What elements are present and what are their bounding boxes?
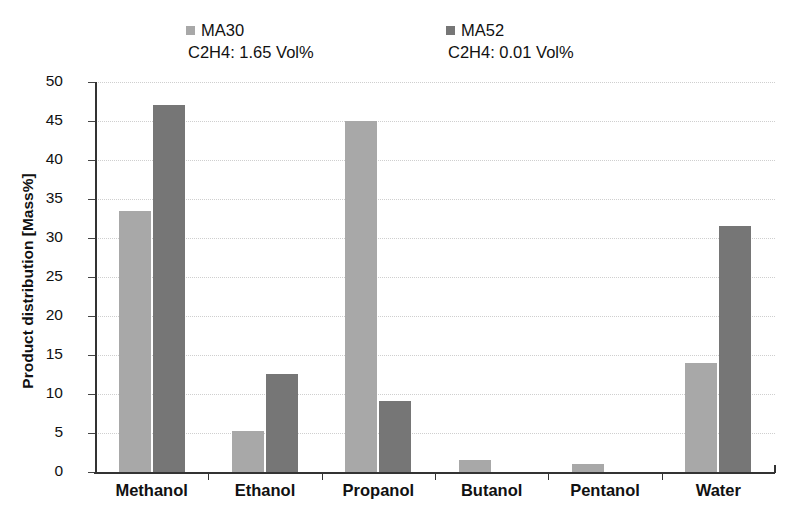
y-tick (88, 394, 95, 395)
y-tick-label: 15 (3, 346, 63, 362)
y-tick (88, 160, 95, 161)
legend-item-ma30: MA30 C2H4: 1.65 Vol% (186, 20, 314, 64)
bar-propanol-ma30 (345, 121, 377, 472)
gridline (95, 277, 775, 278)
y-tick-label: 0 (3, 463, 63, 479)
x-label-butanol: Butanol (435, 481, 548, 500)
bar-propanol-ma52 (379, 401, 411, 472)
bar-butanol-ma30 (459, 460, 491, 472)
chart-legend: MA30 C2H4: 1.65 Vol% MA52 C2H4: 0.01 Vol… (0, 18, 796, 76)
legend-sublabel-ma52: C2H4: 0.01 Vol% (448, 43, 574, 61)
y-tick-label: 10 (3, 385, 63, 401)
x-axis-labels: MethanolEthanolPropanolButanolPentanolWa… (95, 481, 775, 511)
x-label-pentanol: Pentanol (548, 481, 661, 500)
bar-methanol-ma30 (119, 211, 151, 472)
y-tick (88, 433, 95, 434)
y-tick (88, 238, 95, 239)
legend-label-ma30: MA30 (201, 21, 244, 39)
y-tick-label: 25 (3, 268, 63, 284)
y-tick-label: 40 (3, 151, 63, 167)
gridline (95, 355, 775, 356)
y-tick-label: 30 (3, 229, 63, 245)
x-label-water: Water (662, 481, 775, 500)
bar-chart: Product distribution [Mass%] 05101520253… (0, 0, 796, 530)
y-tick (88, 121, 95, 122)
y-tick-label: 35 (3, 190, 63, 206)
legend-swatch-ma30 (186, 26, 195, 35)
legend-item-ma52: MA52 C2H4: 0.01 Vol% (446, 20, 574, 64)
legend-swatch-ma52 (446, 26, 455, 35)
x-label-methanol: Methanol (95, 481, 208, 500)
gridline (95, 121, 775, 122)
x-axis-line (94, 472, 775, 474)
legend-label-ma52: MA52 (461, 21, 504, 39)
y-tick-label: 5 (3, 424, 63, 440)
y-tick (88, 277, 95, 278)
y-tick (88, 355, 95, 356)
gridline (95, 238, 775, 239)
x-label-ethanol: Ethanol (208, 481, 321, 500)
gridline (95, 160, 775, 161)
x-axis-endcap (774, 465, 776, 473)
bar-ethanol-ma52 (266, 374, 298, 472)
gridline (95, 433, 775, 434)
x-label-propanol: Propanol (322, 481, 435, 500)
gridline (95, 82, 775, 83)
bar-water-ma52 (719, 226, 751, 472)
y-tick-label: 20 (3, 307, 63, 323)
bar-ethanol-ma30 (232, 431, 264, 472)
plot-area: 05101520253035404550 (95, 82, 775, 472)
y-tick (88, 316, 95, 317)
y-tick-label: 45 (3, 112, 63, 128)
bar-water-ma30 (685, 363, 717, 472)
y-axis-line (95, 82, 97, 472)
gridline (95, 394, 775, 395)
gridline (95, 316, 775, 317)
y-tick (88, 82, 95, 83)
legend-sublabel-ma30: C2H4: 1.65 Vol% (188, 43, 314, 61)
y-tick (88, 199, 95, 200)
gridline (95, 199, 775, 200)
bar-pentanol-ma30 (572, 464, 604, 472)
bar-methanol-ma52 (153, 105, 185, 472)
